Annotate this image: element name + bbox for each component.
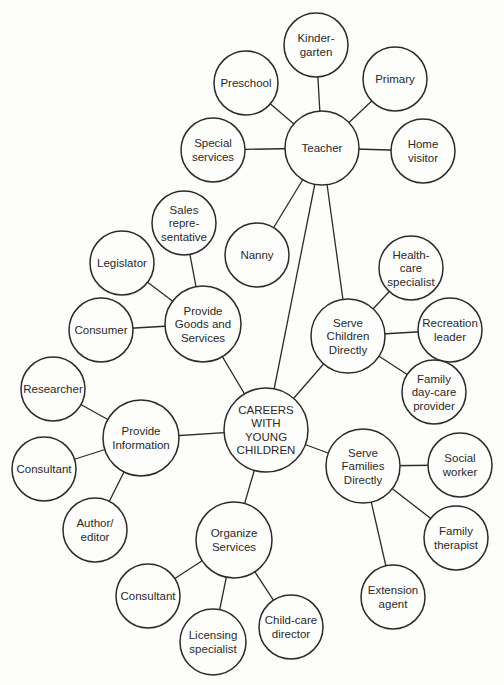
node-label-sales-rep: repre- <box>169 217 200 229</box>
node-label-family-daycare: Family <box>417 373 451 385</box>
node-label-health-care: Health- <box>392 249 429 261</box>
node-label-goods-services: Provide <box>184 305 223 317</box>
node-consultant-org: Consultant <box>116 564 180 628</box>
node-consumer: Consumer <box>69 298 133 362</box>
node-label-licensing: specialist <box>189 643 237 655</box>
node-label-extension-agent: agent <box>379 598 409 610</box>
node-label-sales-rep: sentative <box>161 231 207 243</box>
node-researcher: Researcher <box>21 357 85 421</box>
node-organize-services: OrganizeServices <box>196 502 272 578</box>
node-preschool: Preschool <box>214 51 278 115</box>
node-label-consultant-org: Consultant <box>121 590 177 602</box>
node-label-organize-services: Services <box>212 541 256 553</box>
node-label-author-editor: editor <box>81 531 110 543</box>
node-label-family-daycare: day-care <box>412 386 457 398</box>
node-label-social-worker: Social <box>444 452 475 464</box>
node-label-goods-services: Services <box>181 332 225 344</box>
node-provide-info: ProvideInformation <box>103 400 179 476</box>
node-label-center: CAREERS <box>238 404 294 416</box>
node-label-serve-families: Serve <box>348 447 378 459</box>
node-label-special-services: Special <box>194 137 232 149</box>
node-label-serve-children: Directly <box>329 344 368 356</box>
node-home-visitor: Homevisitor <box>391 119 455 183</box>
node-label-consumer: Consumer <box>74 324 127 336</box>
node-label-author-editor: Author/ <box>76 517 114 529</box>
career-bubble-diagram: CAREERSWITHYOUNGCHILDRENTeacherKinder-ga… <box>0 0 504 685</box>
node-label-center: WITH <box>251 417 280 429</box>
node-label-sales-rep: Sales <box>170 204 199 216</box>
node-label-family-daycare: provider <box>413 400 455 412</box>
node-label-provide-info: Information <box>112 439 170 451</box>
node-nanny: Nanny <box>225 223 289 287</box>
node-label-family-therapist: Family <box>439 525 473 537</box>
node-family-therapist: Familytherapist <box>424 506 488 570</box>
node-family-daycare: Familyday-careprovider <box>402 360 466 424</box>
node-label-goods-services: Goods and <box>175 318 231 330</box>
node-label-recreation: leader <box>434 331 466 343</box>
node-label-serve-families: Directly <box>344 474 383 486</box>
node-label-consultant-info: Consultant <box>17 463 73 475</box>
node-label-nanny: Nanny <box>240 249 273 261</box>
node-label-researcher: Researcher <box>23 383 83 395</box>
node-label-health-care: specialist <box>387 276 435 288</box>
node-label-child-care-director: director <box>272 628 311 640</box>
node-kindergarten: Kinder-garten <box>284 13 348 77</box>
node-label-recreation: Recreation <box>422 317 478 329</box>
node-label-special-services: services <box>192 151 234 163</box>
node-label-serve-families: Families <box>342 460 385 472</box>
node-author-editor: Author/editor <box>63 498 127 562</box>
node-sales-rep: Salesrepre-sentative <box>152 191 216 255</box>
node-extension-agent: Extensionagent <box>361 565 425 629</box>
node-label-social-worker: worker <box>442 466 478 478</box>
node-label-provide-info: Provide <box>122 425 161 437</box>
node-social-worker: Socialworker <box>428 433 492 497</box>
node-label-center: YOUNG <box>245 431 287 443</box>
node-serve-children: ServeChildrenDirectly <box>311 299 385 373</box>
node-legislator: Legislator <box>90 231 154 295</box>
node-label-home-visitor: visitor <box>408 152 438 164</box>
node-label-family-therapist: therapist <box>434 539 479 551</box>
career-nodes: CAREERSWITHYOUNGCHILDRENTeacherKinder-ga… <box>12 13 492 675</box>
node-label-primary: Primary <box>375 73 415 85</box>
node-label-kindergarten: garten <box>300 46 333 58</box>
node-primary: Primary <box>363 47 427 111</box>
edge-center-to-teacher <box>266 148 322 430</box>
node-label-center: CHILDREN <box>237 444 296 456</box>
node-consultant-info: Consultant <box>12 437 76 501</box>
node-recreation: Recreationleader <box>418 298 482 362</box>
node-label-child-care-director: Child-care <box>265 614 317 626</box>
node-label-kindergarten: Kinder- <box>297 32 334 44</box>
node-serve-families: ServeFamiliesDirectly <box>326 429 400 503</box>
node-label-serve-children: Serve <box>333 317 363 329</box>
node-special-services: Specialservices <box>181 118 245 182</box>
node-child-care-director: Child-caredirector <box>259 595 323 659</box>
node-label-teacher: Teacher <box>302 142 343 154</box>
node-label-serve-children: Children <box>327 330 370 342</box>
node-label-home-visitor: Home <box>408 138 439 150</box>
node-label-preschool: Preschool <box>220 77 271 89</box>
node-licensing: Licensingspecialist <box>180 609 246 675</box>
node-label-organize-services: Organize <box>211 527 258 539</box>
node-center: CAREERSWITHYOUNGCHILDREN <box>224 388 308 472</box>
node-label-licensing: Licensing <box>189 629 238 641</box>
node-health-care: Health-carespecialist <box>379 236 443 300</box>
node-teacher: Teacher <box>285 111 359 185</box>
node-goods-services: ProvideGoods andServices <box>165 286 241 362</box>
node-label-extension-agent: Extension <box>368 584 419 596</box>
node-label-legislator: Legislator <box>97 257 147 269</box>
node-label-health-care: care <box>400 262 422 274</box>
